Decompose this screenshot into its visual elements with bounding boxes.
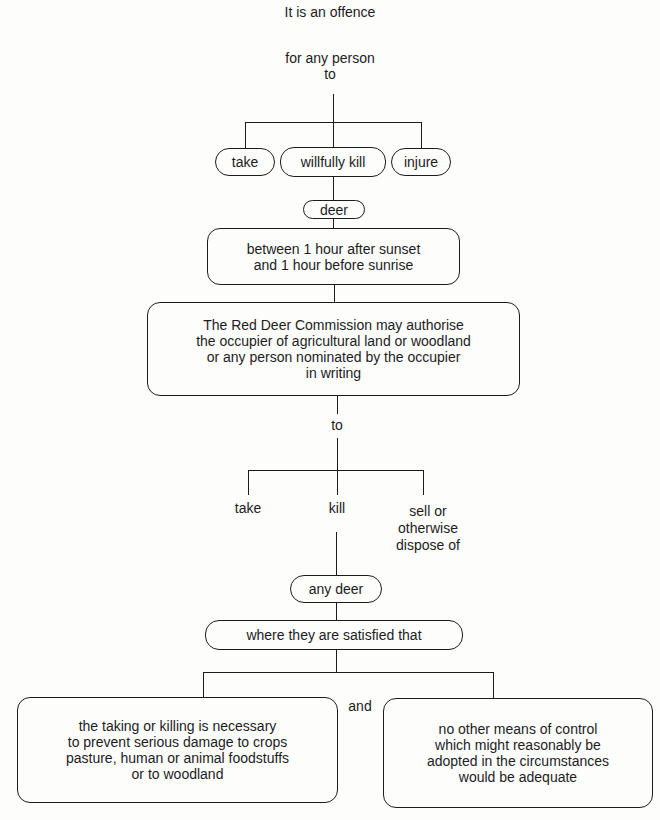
connector-line xyxy=(337,396,338,414)
connector-line xyxy=(203,672,204,698)
connector-line xyxy=(333,94,334,122)
connector-line xyxy=(245,122,246,148)
action-label: willfully kill xyxy=(301,154,366,170)
condition-intro-box: where they are satisfied that xyxy=(205,620,463,650)
condition-intro-text: where they are satisfied that xyxy=(246,627,421,643)
condition-no-alternative-box: no other means of control which might re… xyxy=(383,698,653,808)
header-line-to: to xyxy=(230,66,430,82)
exception-connector: to xyxy=(317,417,357,433)
connector-line xyxy=(336,650,337,672)
connector-line xyxy=(337,438,338,470)
exception-text: The Red Deer Commission may authorise th… xyxy=(196,317,471,381)
exception-box: The Red Deer Commission may authorise th… xyxy=(147,302,520,396)
permitted-action-take: take xyxy=(218,500,278,516)
branch-line xyxy=(203,672,493,673)
condition-necessity-text: the taking or killing is necessary to pr… xyxy=(66,718,289,782)
connector-line xyxy=(423,470,424,495)
permitted-object-label: any deer xyxy=(309,581,363,597)
action-take: take xyxy=(215,148,275,176)
action-label: take xyxy=(232,154,258,170)
condition-necessity-box: the taking or killing is necessary to pr… xyxy=(17,697,338,803)
connector-line xyxy=(333,177,334,200)
action-willfully-kill: willfully kill xyxy=(280,147,386,177)
connector-line xyxy=(333,219,334,228)
permitted-object-any-deer: any deer xyxy=(290,575,382,603)
action-injure: injure xyxy=(391,148,451,176)
connector-line xyxy=(337,470,338,495)
condition-no-alternative-text: no other means of control which might re… xyxy=(427,721,609,785)
header-line-offence: It is an offence xyxy=(230,4,430,20)
branch-line xyxy=(248,470,423,471)
time-condition-text: between 1 hour after sunset and 1 hour b… xyxy=(247,241,421,273)
permitted-action-kill: kill xyxy=(307,500,367,516)
connector-line xyxy=(336,532,337,575)
header-line-person: for any person xyxy=(230,50,430,66)
action-label: injure xyxy=(404,154,438,170)
object-label: deer xyxy=(320,202,348,218)
time-condition-box: between 1 hour after sunset and 1 hour b… xyxy=(207,228,460,285)
object-deer: deer xyxy=(303,200,365,219)
connector-line xyxy=(248,470,249,495)
connector-line xyxy=(421,122,422,148)
connector-line xyxy=(333,122,334,148)
permitted-action-sell: sell or otherwise dispose of xyxy=(383,503,473,554)
connector-line xyxy=(334,285,335,302)
connector-line xyxy=(493,672,494,698)
connector-line xyxy=(336,603,337,620)
conditions-connector: and xyxy=(340,698,380,714)
